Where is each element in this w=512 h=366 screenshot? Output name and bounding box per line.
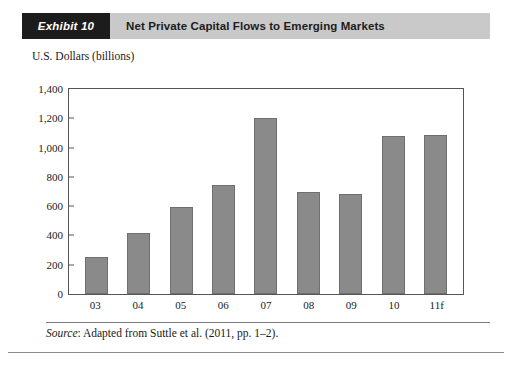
bar-09 [339, 194, 362, 294]
x-axis-tick-label: 05 [159, 299, 202, 311]
bar-03 [85, 257, 108, 294]
y-axis-tick-label: 0 [58, 288, 64, 300]
bar-07 [254, 118, 277, 294]
bar-slot [372, 89, 414, 294]
x-axis-tick-label: 08 [287, 299, 330, 311]
source-label: Source [46, 327, 78, 339]
y-axis-tick-label: 600 [47, 200, 64, 212]
chart-region: U.S. Dollars (billions) 02004006008001,0… [22, 50, 490, 340]
exhibit-header: Exhibit 10 Net Private Capital Flows to … [22, 13, 490, 39]
y-axis-tick-label: 800 [47, 171, 64, 183]
bar-08 [297, 192, 320, 295]
source-divider [46, 322, 490, 323]
bar-05 [170, 207, 193, 294]
exhibit-number-tag: Exhibit 10 [22, 13, 110, 39]
x-axis-tick-label: 07 [245, 299, 288, 311]
x-axis-tick-label: 09 [330, 299, 373, 311]
x-axis-tick-label: 10 [373, 299, 416, 311]
bar-slot [330, 89, 372, 294]
y-axis-title: U.S. Dollars (billions) [32, 50, 134, 62]
y-axis-tick-label: 1,000 [38, 142, 63, 154]
bar-slot [117, 89, 159, 294]
y-axis-tick-label: 1,200 [38, 112, 63, 124]
bar-06 [212, 185, 235, 294]
bar-slot [245, 89, 287, 294]
y-axis-tick-label: 1,400 [38, 83, 63, 95]
bar-slot [415, 89, 457, 294]
bar-slot [287, 89, 329, 294]
x-axis-ticks: 030405060708091011f [68, 299, 464, 311]
bar-11f [424, 135, 447, 294]
bar-04 [127, 233, 150, 294]
bar-slot [160, 89, 202, 294]
source-note: Source: Adapted from Suttle et al. (2011… [46, 327, 278, 339]
bar-10 [382, 136, 405, 294]
bar-slot [202, 89, 244, 294]
x-axis-tick-label: 03 [74, 299, 117, 311]
x-axis-tick-label: 06 [202, 299, 245, 311]
y-axis-tick-label: 400 [47, 229, 64, 241]
source-text: : Adapted from Suttle et al. (2011, pp. … [78, 327, 279, 339]
y-axis-tick-label: 200 [47, 259, 64, 271]
bar-slot [75, 89, 117, 294]
x-axis-tick-label: 04 [117, 299, 160, 311]
page-bottom-rule [8, 352, 504, 353]
x-axis-tick-label: 11f [415, 299, 458, 311]
exhibit-title: Net Private Capital Flows to Emerging Ma… [110, 13, 490, 39]
bars-layer [69, 89, 463, 294]
plot-area: 02004006008001,0001,2001,400 [68, 88, 464, 295]
